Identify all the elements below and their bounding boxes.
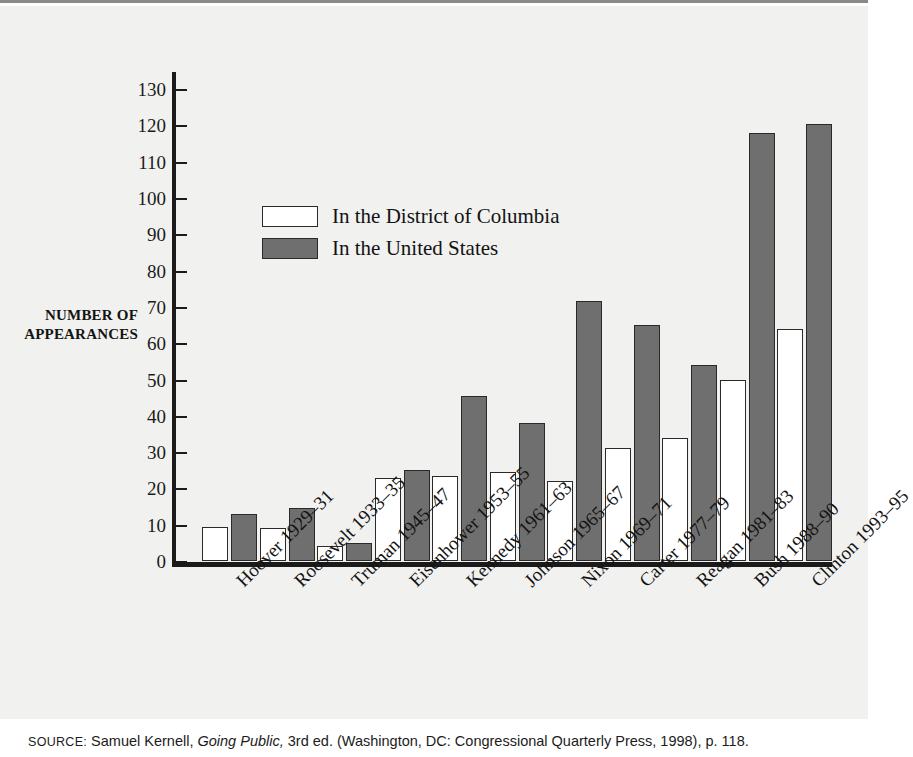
y-tick-110 [176, 162, 187, 164]
y-tick-label-40: 40 [112, 407, 166, 426]
y-tick-80 [176, 271, 187, 273]
y-tick-label-30: 30 [112, 443, 166, 462]
chart-plate: NUMBER OF APPEARANCES In the District of… [0, 6, 868, 719]
y-tick-20 [176, 488, 187, 490]
y-tick-30 [176, 452, 187, 454]
y-tick-100 [176, 198, 187, 200]
y-tick-120 [176, 125, 187, 127]
y-tick-130 [176, 89, 187, 91]
y-tick-label-120: 120 [112, 116, 166, 135]
source-prefix: SOURCE: [28, 735, 87, 749]
y-tick-10 [176, 525, 187, 527]
y-tick-60 [176, 343, 187, 345]
y-tick-90 [176, 234, 187, 236]
y-tick-label-60: 60 [112, 334, 166, 353]
y-tick-50 [176, 380, 187, 382]
source-work-title: Going Public, [197, 733, 283, 749]
plot-area: 0102030405060708090100110120130 Hoover 1… [172, 72, 832, 566]
y-tick-label-70: 70 [112, 298, 166, 317]
y-tick-label-110: 110 [112, 153, 166, 172]
source-author: Samuel Kernell, [87, 733, 197, 749]
y-tick-40 [176, 416, 187, 418]
y-tick-0 [176, 561, 187, 563]
y-tick-label-10: 10 [112, 516, 166, 535]
source-rest: 3rd ed. (Washington, DC: Congressional Q… [284, 733, 749, 749]
y-tick-label-130: 130 [112, 80, 166, 99]
y-axis-line [172, 72, 176, 566]
y-tick-label-50: 50 [112, 371, 166, 390]
bar-dc-0 [202, 527, 228, 561]
y-tick-label-0: 0 [112, 552, 166, 571]
y-tick-label-90: 90 [112, 225, 166, 244]
bar-us-10 [806, 124, 832, 561]
y-tick-70 [176, 307, 187, 309]
source-note: SOURCE: Samuel Kernell, Going Public, 3r… [28, 733, 749, 749]
top-rule [0, 0, 868, 3]
y-tick-label-80: 80 [112, 262, 166, 281]
y-tick-label-20: 20 [112, 479, 166, 498]
y-tick-label-100: 100 [112, 189, 166, 208]
